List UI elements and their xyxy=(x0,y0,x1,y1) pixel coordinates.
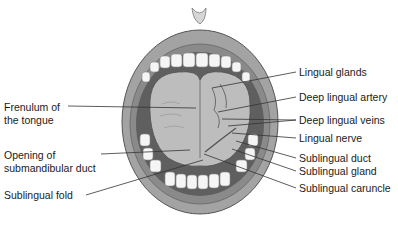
label-deep-lingual-veins: Deep lingual veins xyxy=(299,114,385,127)
label-sublingual-caruncle: Sublingual caruncle xyxy=(299,182,391,195)
label-text: submandibular duct xyxy=(4,162,96,175)
uvula-icon xyxy=(192,8,206,24)
label-frenulum: Frenulum of the tongue xyxy=(4,101,60,126)
label-lingual-nerve: Lingual nerve xyxy=(299,132,362,145)
label-text: the tongue xyxy=(4,114,60,127)
label-sublingual-fold: Sublingual fold xyxy=(4,189,73,202)
label-submandibular-opening: Opening of submandibular duct xyxy=(4,149,96,174)
label-lingual-glands: Lingual glands xyxy=(299,66,367,79)
label-deep-lingual-artery: Deep lingual artery xyxy=(299,91,387,104)
label-text: Opening of xyxy=(4,149,96,162)
label-text: Frenulum of xyxy=(4,101,60,114)
label-sublingual-duct: Sublingual duct xyxy=(299,152,371,165)
label-sublingual-gland: Sublingual gland xyxy=(299,165,377,178)
